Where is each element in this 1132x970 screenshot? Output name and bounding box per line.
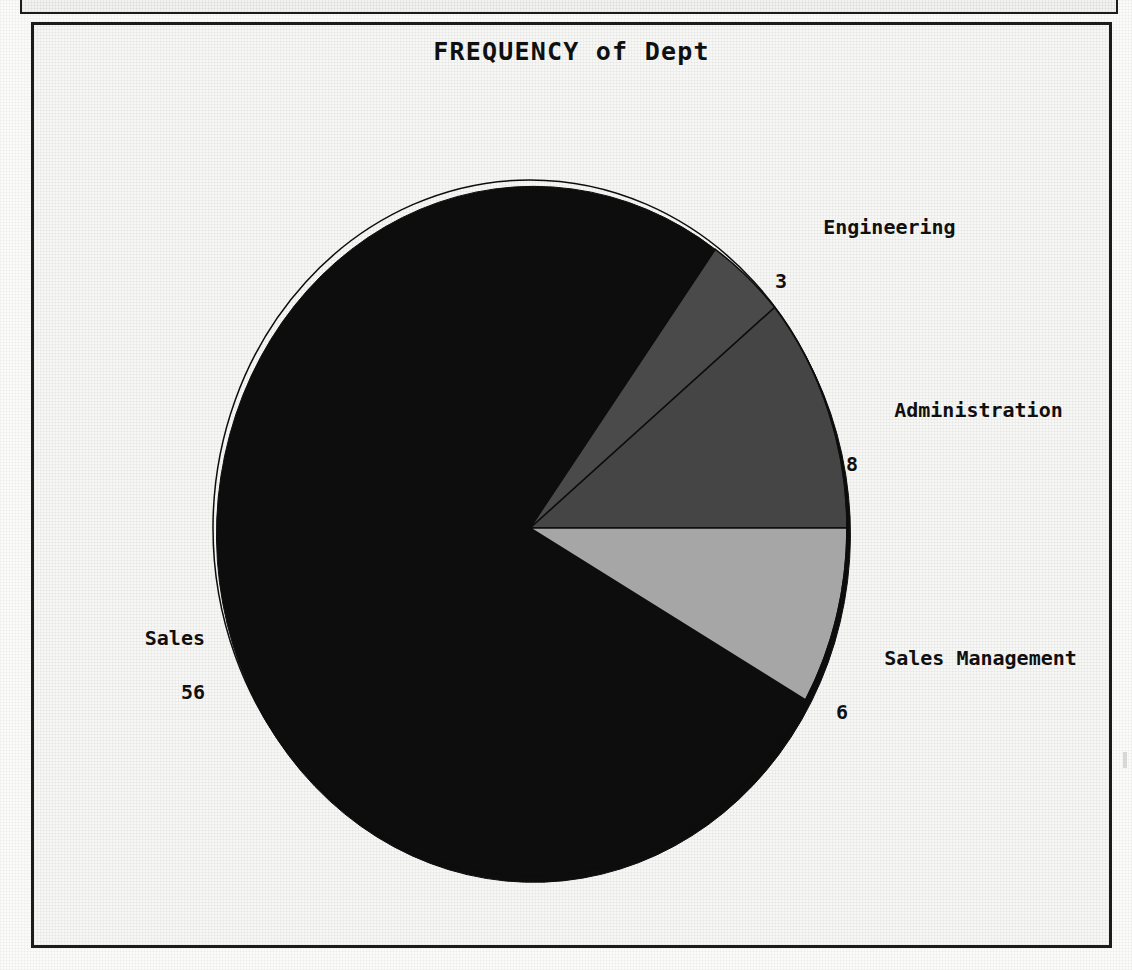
pie-label-administration: Administration 8 xyxy=(846,370,1063,532)
pie-label-sales-value: 56 xyxy=(87,679,205,706)
pie-label-administration-value: 8 xyxy=(846,451,1063,478)
pie-label-sales-management: Sales Management 6 xyxy=(836,618,1077,780)
chart-title: FREQUENCY of Dept xyxy=(34,37,1109,66)
pie-label-administration-name: Administration xyxy=(894,398,1063,422)
pie-label-engineering-value: 3 xyxy=(775,268,956,295)
chart-frame: FREQUENCY of Dept Engineering 3 Administ… xyxy=(31,22,1112,948)
pie-label-sales-management-value: 6 xyxy=(836,699,1077,726)
pie-label-sales-name: Sales xyxy=(145,626,205,650)
cut-off-window-band xyxy=(20,0,1118,14)
band-fill xyxy=(22,0,1116,12)
pie-label-sales-management-name: Sales Management xyxy=(884,646,1077,670)
pie-label-engineering-name: Engineering xyxy=(823,215,955,239)
pie-label-engineering: Engineering 3 xyxy=(775,187,956,349)
pie-label-sales: Sales 56 xyxy=(87,598,205,760)
